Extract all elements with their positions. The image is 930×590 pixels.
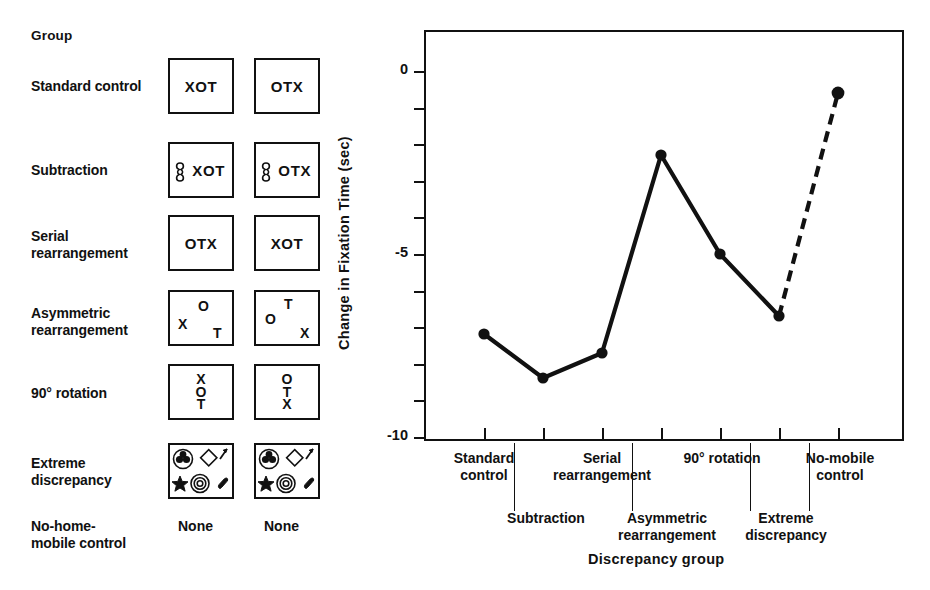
y-tick-minor-1 (414, 108, 426, 110)
y-tick-10 (414, 437, 426, 439)
stimulus-letter-x: X (300, 325, 309, 341)
stimulus-box-r5c2: OTX (254, 364, 320, 420)
stimulus-box-r2c1: XOT (168, 142, 234, 198)
data-point-standard-control (478, 328, 489, 339)
stimulus-box-r3c2: XOT (254, 215, 320, 271)
y-tick-minor-7 (414, 327, 426, 329)
x-axis-title: Discrepancy group (588, 551, 724, 567)
x-label-no-mobile-control: No-mobile control (788, 450, 892, 484)
y-tick-label-5: -5 (368, 244, 408, 260)
stimulus-letter-t: T (284, 296, 293, 312)
y-tick-minor-2 (414, 144, 426, 146)
diamond-icon (201, 450, 217, 466)
stimulus-text-r2c1: XOT (170, 144, 232, 196)
chart-panel: Change in Fixation Time (sec) 0 -5 -10 (348, 0, 930, 590)
data-point-90-rotation (714, 248, 725, 259)
y-tick-5 (414, 254, 426, 256)
solid-line-segment (484, 155, 779, 378)
x-label-standard-control: Standard control (434, 450, 534, 484)
stimulus-text-r3c2: XOT (256, 217, 318, 269)
plot-area: 0 -5 -10 (424, 30, 904, 441)
stimulus-box-r6c2 (254, 443, 320, 499)
y-tick-label-10: -10 (368, 427, 408, 443)
stimulus-letter-t: T (213, 325, 222, 341)
row-label-serial-rearrangement: Serialrearrangement (31, 228, 128, 262)
stimulus-letter-o: O (198, 298, 209, 314)
stimulus-text-r3c1: OTX (170, 217, 232, 269)
row-label-standard-control: Standard control (31, 78, 141, 95)
extreme-discrepancy-shapes (256, 445, 318, 497)
x-label-subtraction: Subtraction (492, 510, 600, 527)
y-tick-0 (414, 71, 426, 73)
x-label-90-rotation: 90° rotation (672, 450, 772, 467)
extreme-discrepancy-shapes (170, 445, 232, 497)
data-point-extreme-discrepancy (773, 310, 784, 321)
stimulus-box-r6c1 (168, 443, 234, 499)
y-tick-minor-4 (414, 217, 426, 219)
row-label-extreme-discrepancy: Extremediscrepancy (31, 455, 112, 489)
stimulus-box-r3c1: OTX (168, 215, 234, 271)
y-tick-minor-9 (414, 400, 426, 402)
spiral-icon (277, 475, 295, 493)
x-label-asymmetric-rearrangement: Asymmetric rearrangement (606, 510, 728, 544)
row-label-no-home-mobile-control: No-home-mobile control (31, 518, 126, 552)
data-point-asymmetric-rearrangement (655, 149, 666, 160)
x-label-serial-rearrangement: Serial rearrangement (537, 450, 667, 484)
stimulus-letters-vertical: XOT (170, 366, 232, 418)
stimulus-none-r7c1: None (178, 518, 213, 534)
star-icon (172, 476, 188, 491)
group-header: Group (31, 28, 73, 43)
data-point-serial-rearrangement (596, 347, 607, 358)
stimulus-box-r4c2: O T X (254, 290, 320, 346)
dashed-line-segment (779, 93, 838, 316)
stimulus-text-r2c2: OTX (256, 144, 318, 196)
row-label-90-rotation: 90° rotation (31, 385, 107, 402)
star-icon (258, 476, 274, 491)
y-tick-minor-6 (414, 291, 426, 293)
row-label-subtraction: Subtraction (31, 162, 108, 179)
stimulus-text-r1c2: OTX (256, 60, 318, 112)
y-tick-label-0: 0 (368, 61, 408, 77)
stimulus-box-r4c1: X O T (168, 290, 234, 346)
teardrop-icon (218, 478, 227, 489)
stimulus-box-r1c2: OTX (254, 58, 320, 114)
y-tick-minor-3 (414, 181, 426, 183)
stimulus-box-r2c2: OTX (254, 142, 320, 198)
data-series-line (426, 32, 906, 443)
stimulus-text-r1c1: XOT (170, 60, 232, 112)
data-markers (478, 87, 844, 384)
diamond-icon (287, 450, 303, 466)
row-label-asymmetric-rearrangement: Asymmetricrearrangement (31, 305, 128, 339)
teardrop-icon (304, 478, 313, 489)
y-tick-minor-8 (414, 364, 426, 366)
data-point-subtraction (537, 372, 548, 383)
stimulus-box-r5c1: XOT (168, 364, 234, 420)
stimulus-box-r1c1: XOT (168, 58, 234, 114)
y-axis-title: Change in Fixation Time (sec) (336, 50, 352, 350)
stimulus-none-r7c2: None (264, 518, 299, 534)
stimulus-letters-vertical: OTX (256, 366, 318, 418)
stimulus-letter-o: O (265, 311, 276, 327)
stimulus-letter-x: X (178, 316, 187, 332)
spiral-icon (191, 475, 209, 493)
data-point-no-mobile-control (832, 87, 845, 100)
x-label-extreme-discrepancy: Extreme discrepancy (734, 510, 838, 544)
